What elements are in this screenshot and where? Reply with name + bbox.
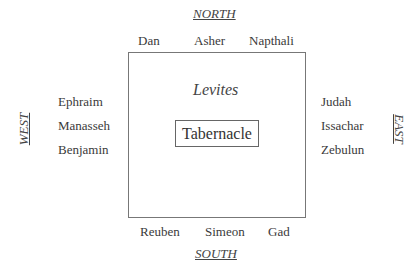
tribe-judah: Judah <box>321 94 351 110</box>
tribe-dan: Dan <box>138 33 160 49</box>
direction-south: SOUTH <box>195 246 237 262</box>
tribe-asher: Asher <box>194 33 225 49</box>
tabernacle-box: Tabernacle <box>175 120 259 147</box>
tribe-reuben: Reuben <box>140 224 180 240</box>
levites-label: Levites <box>193 81 238 99</box>
tribe-gad: Gad <box>268 224 290 240</box>
tribe-ephraim: Ephraim <box>58 94 103 110</box>
tribe-issachar: Issachar <box>321 118 364 134</box>
tribe-napthali: Napthali <box>249 33 294 49</box>
tribe-manasseh: Manasseh <box>58 118 110 134</box>
direction-north: NORTH <box>193 6 236 22</box>
direction-west: WEST <box>16 111 32 147</box>
tribe-simeon: Simeon <box>205 224 245 240</box>
tribe-benjamin: Benjamin <box>58 142 109 158</box>
tabernacle-label: Tabernacle <box>182 125 252 143</box>
direction-east: EAST <box>391 111 407 147</box>
tribe-zebulun: Zebulun <box>321 142 364 158</box>
